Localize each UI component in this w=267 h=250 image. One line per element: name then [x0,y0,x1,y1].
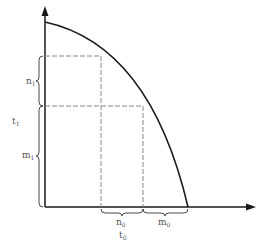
frontier-curve [45,22,188,207]
label-m0: m0 [158,217,171,228]
label-t0: t0 [119,230,127,241]
brace-n1 [36,56,43,106]
diagram-canvas: n1 t1 m1 n0 m0 t0 [0,0,267,250]
brace-n0 [101,209,143,216]
x-axis-arrow-icon [246,204,256,211]
label-t1: t1 [12,116,19,127]
y-axis-arrow-icon [42,6,49,16]
brace-m0 [143,209,188,216]
brace-m1 [36,106,43,207]
label-m1: m1 [22,150,34,161]
label-n0: n0 [116,217,126,228]
label-n1: n1 [26,76,36,87]
